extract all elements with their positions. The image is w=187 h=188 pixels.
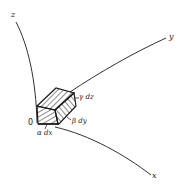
gamma-dz-label: γ dz xyxy=(79,94,94,101)
beta-dy-label: β dy xyxy=(72,118,87,125)
x-axis-curve xyxy=(55,127,151,175)
origin-label: 0 xyxy=(28,119,33,127)
z-axis-curve xyxy=(16,22,37,123)
beta-leader xyxy=(67,117,71,120)
alpha-dx-label: α dx xyxy=(37,130,52,137)
y-axis-label: y xyxy=(169,33,174,41)
x-axis-label: x xyxy=(152,172,157,180)
volume-element xyxy=(37,88,76,124)
z-axis-label: z xyxy=(11,11,15,19)
y-axis-curve xyxy=(70,38,166,92)
